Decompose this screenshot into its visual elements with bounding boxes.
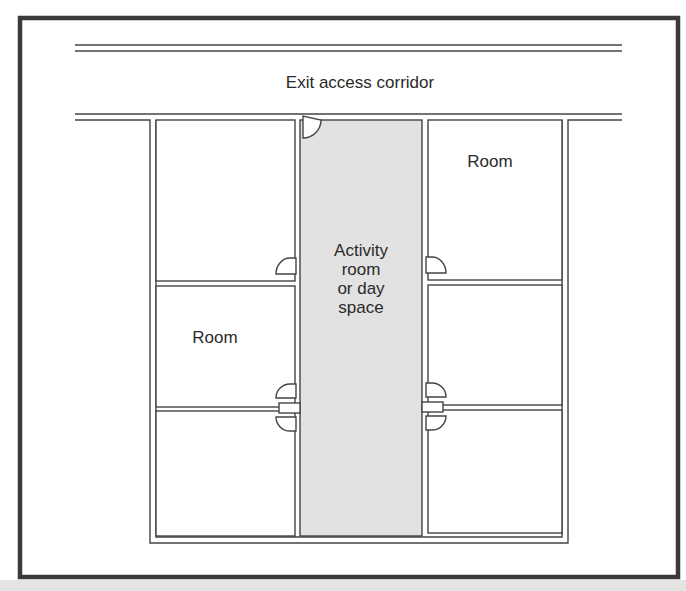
corridor-label: Exit access corridor (240, 73, 480, 92)
activity-room-label: Activity room or day space (315, 241, 407, 317)
left-room-3 (156, 411, 295, 536)
right-wall-stub (422, 402, 443, 412)
right-room-3 (428, 410, 562, 533)
room-middle-left-label: Room (180, 328, 250, 347)
activity-room (300, 120, 422, 536)
right-room-1 (428, 120, 562, 280)
right-room-2 (428, 285, 562, 405)
room-top-right-label: Room (455, 152, 525, 171)
left-room-1 (156, 120, 295, 281)
left-wall-stub (279, 403, 300, 413)
